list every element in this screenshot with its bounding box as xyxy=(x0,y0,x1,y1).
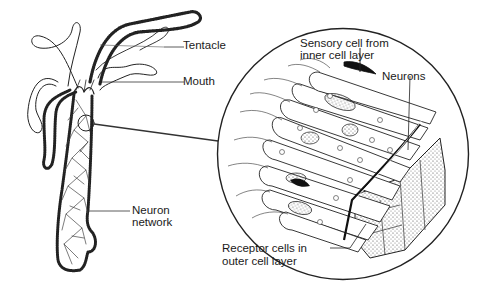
label-receptor-line1: Receptor cells in xyxy=(222,242,307,255)
label-receptor-line2: outer cell layer xyxy=(222,255,297,268)
hydra-diagram: Tentacle Mouth Neuron network Sensory ce… xyxy=(0,0,493,300)
label-neurons: Neurons xyxy=(382,70,425,83)
label-neuron-network-line2: network xyxy=(132,216,172,229)
hydra-body xyxy=(28,12,201,271)
label-tentacle: Tentacle xyxy=(183,39,226,52)
label-mouth: Mouth xyxy=(183,75,215,88)
magnify-connector xyxy=(94,124,218,141)
label-sensory-line2: inner cell layer xyxy=(300,49,374,62)
